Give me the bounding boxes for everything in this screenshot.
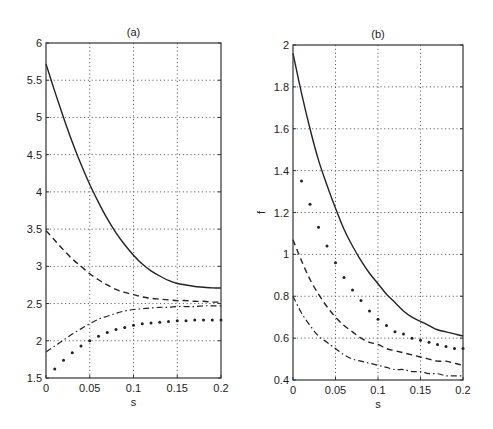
x-axis-label: s <box>375 398 381 410</box>
series-dotted-point <box>334 261 337 264</box>
series-dotted-point <box>411 337 414 340</box>
y-tick-label: 4 <box>36 186 42 198</box>
y-axis-label: f <box>255 210 267 214</box>
series-dotted-point <box>80 344 83 347</box>
y-tick-label: 2 <box>36 335 42 347</box>
figure: 00.050.10.150.21.522.533.544.555.56(a)s … <box>0 0 493 429</box>
y-tick-label: 5.5 <box>27 74 42 86</box>
series-dotted-point <box>351 288 354 291</box>
x-tick-label: 0.1 <box>126 382 141 394</box>
series-dotted-point <box>377 318 380 321</box>
series-solid <box>46 64 221 288</box>
series-dotted-point <box>71 351 74 354</box>
x-tick-label: 0.2 <box>455 384 470 396</box>
series-dotted-point <box>123 326 126 329</box>
x-tick-label: 0 <box>290 384 296 396</box>
y-tick-label: 5 <box>36 111 42 123</box>
series-dotted-point <box>176 319 179 322</box>
series-dotted-point <box>402 332 405 335</box>
series-dotted-point <box>150 321 153 324</box>
series-dotted-point <box>106 331 109 334</box>
series-dotted-point <box>193 318 196 321</box>
series-dotted-point <box>309 203 312 206</box>
x-tick-label: 0.05 <box>79 382 100 394</box>
x-tick-label: 0.15 <box>410 384 431 396</box>
series-dotted-point <box>185 319 188 322</box>
series-dotted-point <box>97 335 100 338</box>
series-dotted-point <box>436 343 439 346</box>
series-dotted-point <box>300 180 303 183</box>
series-dotted-point <box>62 359 65 362</box>
series-dotted-point <box>428 341 431 344</box>
chart-panel-a: 00.050.10.150.21.522.533.544.555.56(a)s <box>27 26 229 408</box>
y-tick-label: 1.4 <box>274 165 289 177</box>
chart-title: (a) <box>127 26 140 38</box>
series-dotted-point <box>368 309 371 312</box>
y-tick-label: 6 <box>36 37 42 49</box>
series-dotted-point <box>88 339 91 342</box>
series-dotted-point <box>326 245 329 248</box>
y-tick-label: 3.5 <box>27 223 42 235</box>
series-dotted-point <box>167 320 170 323</box>
y-tick-label: 1.2 <box>274 207 289 219</box>
chart-panel-b: 00.050.10.150.20.40.60.811.21.41.61.82(b… <box>255 28 471 410</box>
series-dotted-point <box>53 368 56 371</box>
series-dotted-point <box>445 345 448 348</box>
series-dotted-point <box>453 347 456 350</box>
chart-title: (b) <box>371 28 384 40</box>
series-dotted-point <box>115 328 118 331</box>
x-axis-label: s <box>131 396 137 408</box>
y-tick-label: 3 <box>36 260 42 272</box>
series-dotted-point <box>132 324 135 327</box>
y-tick-label: 0.4 <box>274 374 289 386</box>
series-dotted-point <box>419 339 422 342</box>
y-tick-label: 2.5 <box>27 298 42 310</box>
series-dotted-point <box>317 226 320 229</box>
x-tick-label: 0.2 <box>213 382 228 394</box>
y-tick-label: 1 <box>283 248 289 260</box>
y-tick-label: 1.8 <box>274 81 289 93</box>
x-tick-label: 0.1 <box>370 384 385 396</box>
series-dotted-point <box>141 322 144 325</box>
y-tick-label: 0.8 <box>274 290 289 302</box>
series-solid <box>293 53 463 336</box>
x-tick-label: 0.05 <box>325 384 346 396</box>
y-tick-label: 1.6 <box>274 123 289 135</box>
x-tick-label: 0.15 <box>167 382 188 394</box>
y-tick-label: 1.5 <box>27 372 42 384</box>
series-dotted-point <box>343 276 346 279</box>
series-dotted-point <box>202 318 205 321</box>
series-dotted-point <box>360 299 363 302</box>
x-tick-label: 0 <box>43 382 49 394</box>
y-tick-label: 2 <box>283 39 289 51</box>
series-dotted-point <box>385 324 388 327</box>
series-dotted-point <box>158 321 161 324</box>
y-tick-label: 4.5 <box>27 149 42 161</box>
y-tick-label: 0.6 <box>274 332 289 344</box>
series-dotted-point <box>394 330 397 333</box>
series-dotted-point <box>211 318 214 321</box>
